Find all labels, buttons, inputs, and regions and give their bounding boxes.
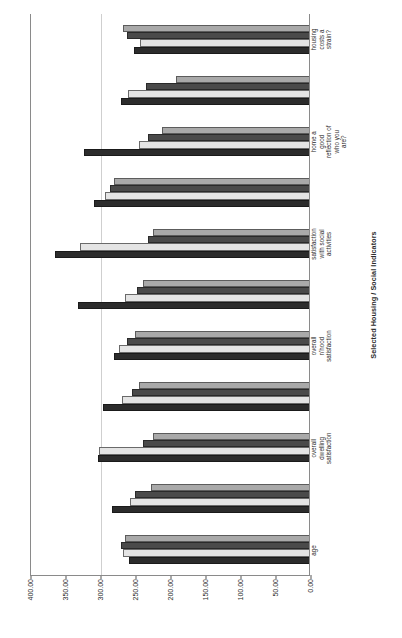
bar <box>78 302 309 309</box>
bar <box>135 331 309 338</box>
bar <box>94 200 309 207</box>
bar <box>146 83 309 90</box>
x-axis-tick-label <box>310 269 344 320</box>
bar <box>112 506 309 513</box>
x-axis-tick-label: age <box>310 525 344 576</box>
bar <box>105 193 309 200</box>
bar <box>151 484 309 491</box>
x-axis-tick-label-text: housing costs a strain? <box>310 23 333 57</box>
bar <box>114 353 309 360</box>
bar-series-container <box>31 14 309 575</box>
bar-group <box>31 65 309 116</box>
bar <box>80 244 309 251</box>
bar <box>137 287 309 294</box>
bar <box>148 236 309 243</box>
x-axis-tick-label <box>310 167 344 218</box>
x-axis-tick-label: home a good reflection of who you are? <box>310 116 344 167</box>
x-axis-tick-label-text: home a good reflection of who you are? <box>310 125 348 159</box>
bar-group <box>31 14 309 65</box>
y-axis-tick-label: 200.00 <box>167 579 174 600</box>
bar <box>148 134 309 141</box>
y-axis-tick-label: 150.00 <box>202 579 209 600</box>
bar <box>129 557 309 564</box>
bar-group <box>31 524 309 575</box>
y-axis-tick-label: 250.00 <box>132 579 139 600</box>
y-axis-tick-label: 50.00 <box>272 579 279 597</box>
bar-group <box>31 371 309 422</box>
x-axis-title: Selected Housing / Social Indicators <box>369 14 378 576</box>
bar <box>153 229 309 236</box>
y-axis-tick-label: 100.00 <box>237 579 244 600</box>
x-axis-tick-label <box>310 474 344 525</box>
bar <box>99 448 309 455</box>
bar <box>139 382 309 389</box>
bar-chart-figure: Mean Rank on Selected Indicators 0.0050.… <box>0 0 402 638</box>
bar-group <box>31 473 309 524</box>
bar-group <box>31 422 309 473</box>
bar <box>143 440 309 447</box>
x-axis-tick-label-text: overall n'hood satisfaction <box>310 329 333 363</box>
bar <box>139 142 309 149</box>
bar <box>134 47 309 54</box>
bar-group <box>31 116 309 167</box>
bar-group <box>31 167 309 218</box>
bar <box>121 542 309 549</box>
x-axis-tick-label <box>310 65 344 116</box>
x-axis-tick-label: satisfaction with social activities <box>310 218 344 269</box>
bar <box>135 491 309 498</box>
bar <box>114 178 309 185</box>
bar-group <box>31 269 309 320</box>
bar <box>103 404 309 411</box>
x-axis-tick-label <box>310 372 344 423</box>
bar <box>110 185 309 192</box>
bar <box>121 98 309 105</box>
x-axis-label-row: ageoverall dwelling satisfactionoverall … <box>310 0 344 638</box>
bar-group <box>31 218 309 269</box>
x-axis-tick-label: overall dwelling satisfaction <box>310 423 344 474</box>
bar <box>98 455 309 462</box>
y-axis-tick-label: 300.00 <box>97 579 104 600</box>
y-axis-tick-label: 400.00 <box>27 579 34 600</box>
bar <box>143 280 309 287</box>
bar <box>84 149 309 156</box>
x-axis-tick-labels: ageoverall dwelling satisfactionoverall … <box>310 14 344 576</box>
bar <box>127 32 309 39</box>
bar <box>130 499 309 506</box>
rotated-figure-stage: Mean Rank on Selected Indicators 0.0050.… <box>0 0 402 638</box>
bar <box>123 550 309 557</box>
bar <box>55 251 309 258</box>
y-axis-tick-label: 350.00 <box>62 579 69 600</box>
plot-area <box>30 14 310 576</box>
x-axis-tick-label-text: age <box>310 533 318 567</box>
x-axis-tick-label-text: overall dwelling satisfaction <box>310 431 333 465</box>
bar <box>176 76 309 83</box>
x-axis-tick-label: housing costs a strain? <box>310 14 344 65</box>
bar <box>162 127 309 134</box>
bar <box>125 535 309 542</box>
bar <box>153 433 309 440</box>
bar <box>123 25 309 32</box>
x-axis-tick-label-text: satisfaction with social activities <box>310 227 333 261</box>
bar <box>119 346 309 353</box>
bar <box>128 91 309 98</box>
x-axis-tick-label: overall n'hood satisfaction <box>310 321 344 372</box>
bar <box>140 40 309 47</box>
bar <box>132 389 309 396</box>
y-axis-tick-labels: 0.0050.00100.00150.00200.00250.00300.003… <box>30 576 310 620</box>
bar <box>125 295 309 302</box>
bar <box>127 338 309 345</box>
bar <box>122 397 309 404</box>
bar-group <box>31 320 309 371</box>
